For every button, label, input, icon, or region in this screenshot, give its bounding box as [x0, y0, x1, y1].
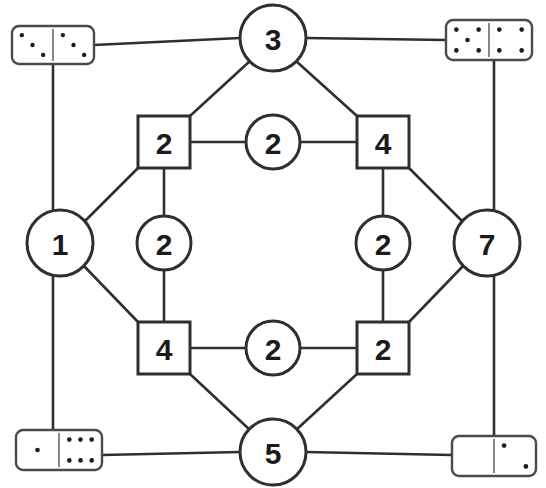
domino-1-6-right-pip-4: [78, 458, 83, 463]
edge-bottom-left-domino-to-bottom: [102, 452, 240, 455]
edge-top-left-domino-to-top: [94, 38, 240, 45]
inner-circle-node-top-mid-label: 2: [265, 127, 282, 160]
inner-circle-node-bottom-mid[interactable]: 2: [246, 321, 300, 375]
domino-5-4-right-pip-2: [497, 48, 502, 53]
edge-bottom-right-square-to-bottom: [296, 374, 357, 430]
domino-5-4-right-pip-0: [497, 27, 502, 32]
edge-top-to-top-right-square: [296, 61, 357, 116]
domino-3-3-right-pip-2: [82, 53, 86, 57]
outer-circle-node-right[interactable]: 7: [454, 210, 520, 276]
diagram-canvas: 317522222442: [0, 0, 546, 488]
domino-5-4-right-pip-1: [519, 27, 524, 32]
domino-0-2[interactable]: [452, 436, 536, 476]
outer-circle-node-left[interactable]: 1: [27, 210, 93, 276]
nodes-layer: 317522222442: [27, 5, 520, 485]
square-node-bottom-right-label: 2: [375, 333, 392, 366]
domino-1-6[interactable]: [16, 430, 102, 470]
domino-3-3-right-pip-0: [61, 33, 65, 37]
inner-circle-node-left-mid[interactable]: 2: [137, 216, 191, 270]
domino-1-6-right-pip-5: [89, 458, 94, 463]
inner-circle-node-right-mid[interactable]: 2: [356, 216, 410, 270]
domino-1-6-right-pip-2: [89, 437, 94, 442]
domino-1-6-left-pip-0: [35, 448, 40, 453]
square-node-top-right[interactable]: 4: [357, 116, 409, 168]
square-node-top-right-label: 4: [375, 127, 392, 160]
square-node-top-left[interactable]: 2: [138, 116, 190, 168]
square-node-bottom-right[interactable]: 2: [357, 322, 409, 374]
outer-circle-node-bottom[interactable]: 5: [240, 419, 306, 485]
domino-1-6-right-pip-0: [67, 437, 72, 442]
edge-top-right-square-to-right: [409, 168, 464, 223]
domino-3-3-left-pip-0: [20, 33, 24, 37]
domino-5-4-left-pip-4: [476, 48, 481, 53]
outer-circle-node-top-label: 3: [265, 23, 282, 56]
square-node-top-left-label: 2: [156, 127, 173, 160]
outer-circle-node-right-label: 7: [479, 228, 496, 261]
edge-top-to-top-right-domino: [306, 38, 446, 40]
domino-0-2-right-pip-1: [524, 464, 529, 469]
outer-circle-node-bottom-label: 5: [265, 437, 282, 470]
outer-circle-node-top[interactable]: 3: [240, 5, 306, 71]
domino-5-4-left-pip-2: [465, 38, 470, 43]
domino-5-4-left-pip-0: [454, 27, 459, 32]
edge-right-to-bottom-right-square: [409, 265, 464, 322]
inner-circle-node-bottom-mid-label: 2: [265, 333, 282, 366]
edge-left-to-bottom-left-square: [83, 265, 138, 322]
square-node-bottom-left[interactable]: 4: [138, 322, 190, 374]
edge-top-left-square-to-left: [83, 168, 138, 223]
domino-3-3-left-pip-2: [41, 53, 45, 57]
domino-0-2-right-pip-0: [502, 443, 507, 448]
domino-graph-diagram: 317522222442: [0, 0, 546, 488]
domino-5-4-left-pip-3: [454, 48, 459, 53]
domino-5-4[interactable]: [446, 20, 532, 60]
domino-5-4-left-pip-1: [476, 27, 481, 32]
domino-3-3-right-pip-1: [71, 43, 75, 47]
inner-circle-node-left-mid-label: 2: [156, 228, 173, 261]
domino-3-3[interactable]: [12, 26, 94, 64]
edge-top-to-top-left-square: [190, 61, 250, 116]
domino-5-4-right-pip-3: [519, 48, 524, 53]
edges-layer: [53, 38, 494, 455]
square-node-bottom-left-label: 4: [156, 333, 173, 366]
outer-circle-node-left-label: 1: [52, 228, 69, 261]
domino-1-6-right-pip-3: [67, 458, 72, 463]
inner-circle-node-top-mid[interactable]: 2: [246, 115, 300, 169]
edge-bottom-to-bottom-right-domino: [306, 452, 452, 455]
edge-bottom-left-square-to-bottom: [190, 374, 250, 430]
domino-1-6-right-pip-1: [78, 437, 83, 442]
inner-circle-node-right-mid-label: 2: [375, 228, 392, 261]
domino-3-3-left-pip-1: [30, 43, 34, 47]
